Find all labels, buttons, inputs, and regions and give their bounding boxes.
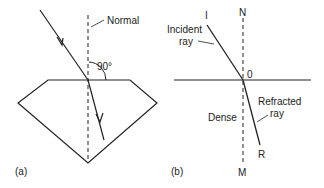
caption-a: (a) — [15, 166, 27, 177]
point-i: I — [205, 10, 208, 21]
refracted-ray-a — [88, 80, 104, 140]
refraction-diagram: Normal 90° (a) I N Incident ray 0 Dense … — [0, 0, 324, 188]
point-m: M — [238, 167, 246, 178]
refracted-leader-line — [257, 115, 268, 122]
normal-leader-line — [91, 20, 104, 27]
refracted-ray-b — [243, 80, 260, 145]
point-r: R — [258, 149, 265, 160]
angle-label: 90° — [97, 61, 112, 72]
incident-ray-a — [40, 10, 88, 80]
incident-ray-b — [207, 25, 243, 80]
point-n: N — [239, 7, 246, 18]
incident-leader-line — [198, 41, 214, 44]
normal-label: Normal — [107, 15, 139, 26]
incident-label-2: ray — [179, 36, 193, 47]
panel-b: I N Incident ray 0 Dense Refracted ray R… — [167, 7, 311, 178]
refracted-label-1: Refracted — [258, 96, 301, 107]
point-o: 0 — [247, 69, 253, 80]
panel-a: Normal 90° (a) — [15, 10, 157, 177]
incident-label-1: Incident — [167, 24, 202, 35]
medium-label: Dense — [208, 112, 237, 123]
caption-b: (b) — [171, 166, 183, 177]
refracted-label-2: ray — [270, 108, 284, 119]
